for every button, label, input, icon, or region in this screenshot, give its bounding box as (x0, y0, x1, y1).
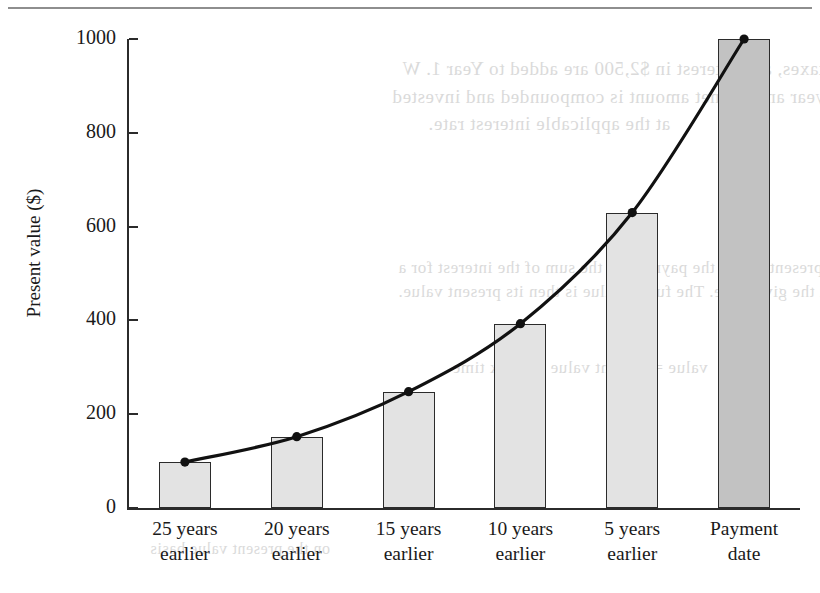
figure-page: a 25-year property, taxes, and interest … (0, 0, 820, 593)
curve-data-point-marker (292, 432, 301, 441)
curve-data-point-marker (180, 457, 189, 466)
present-value-curve (0, 0, 820, 593)
curve-data-point-marker (628, 208, 637, 217)
curve-data-point-marker (516, 319, 525, 328)
curve-data-point-marker (739, 34, 748, 43)
present-value-bar-chart: Present value ($) 02004006008001000 25 y… (0, 0, 820, 593)
curve-path (185, 39, 744, 462)
curve-data-point-marker (404, 387, 413, 396)
